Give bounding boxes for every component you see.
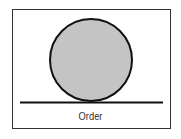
sphere-circle bbox=[50, 19, 132, 101]
diagram-label: Order bbox=[14, 110, 168, 122]
